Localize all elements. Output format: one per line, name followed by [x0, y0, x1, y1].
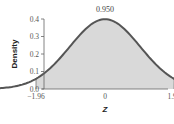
- y-tick-label: 0.4: [30, 15, 40, 24]
- y-tick-label: 0.1: [30, 67, 40, 76]
- y-tick-label: 0.3: [30, 32, 40, 41]
- y-tick-label: 0.2: [30, 50, 40, 59]
- shaded-region-95: [36, 19, 174, 89]
- x-axis-title: Z: [102, 105, 109, 114]
- x-tick-labels: −1.9601.96: [27, 92, 174, 101]
- y-axis-title: Density: [10, 39, 19, 68]
- x-tick-label: 1.96: [167, 92, 174, 101]
- x-tick-label: 0: [103, 92, 107, 101]
- x-tick-label: −1.96: [27, 92, 45, 101]
- plot-area: [0, 19, 174, 89]
- probability-annotation: 0.950: [96, 5, 114, 14]
- normal-density-chart: 0.00.10.20.30.4 −1.9601.96 Density Z 0.9…: [0, 0, 174, 124]
